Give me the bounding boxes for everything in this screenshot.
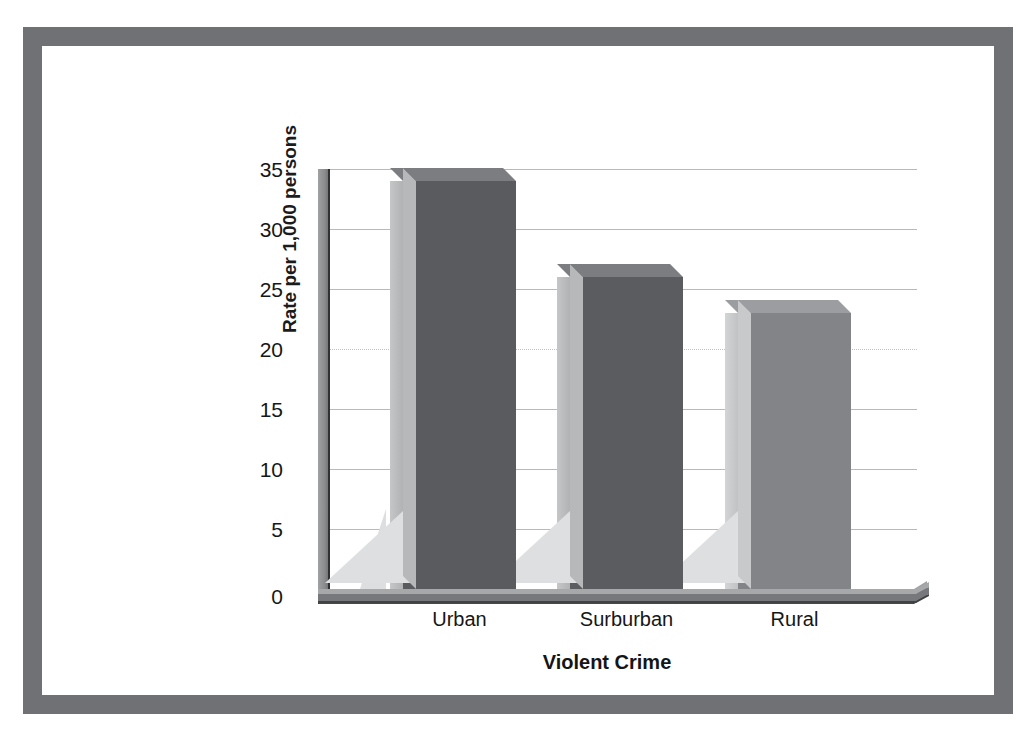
screenshot-root: Rate per 1,000 persons 35 30 25 20 15 — [0, 0, 1033, 733]
frame-inner-white: Rate per 1,000 persons 35 30 25 20 15 — [42, 46, 994, 695]
y-tick-label-15: 15 — [223, 399, 283, 420]
bar-surburban[interactable] — [570, 277, 670, 589]
y-tick-label-0: 0 — [223, 586, 283, 607]
y-tick-label-25: 25 — [223, 279, 283, 300]
bar-urban[interactable] — [403, 181, 503, 589]
bar-rural[interactable] — [738, 313, 838, 589]
bar-side-surburban — [557, 277, 570, 589]
bar-top-rural-shape — [725, 300, 838, 314]
bar-side-urban — [390, 181, 403, 589]
x-tick-label-rural: Rural — [738, 608, 851, 631]
y-tick-label-30: 30 — [223, 219, 283, 240]
y-tick-label-10: 10 — [223, 459, 283, 480]
bar-face-rural — [738, 313, 838, 589]
bar-face-surburban — [570, 277, 670, 589]
bar-top-urban-shape — [390, 168, 503, 182]
bar-chart: Rate per 1,000 persons 35 30 25 20 15 — [42, 46, 994, 695]
y-tick-label-35: 35 — [223, 159, 283, 180]
image-border-frame: Rate per 1,000 persons 35 30 25 20 15 — [23, 27, 1013, 714]
bar-top-surburban-shape — [557, 264, 670, 278]
y-tick-label-5: 5 — [223, 519, 283, 540]
x-tick-label-surburban: Surburban — [570, 608, 683, 631]
bar-side-rural — [725, 313, 738, 589]
bar-top-rural — [725, 300, 838, 313]
plot-area: 35 30 25 20 15 10 5 0 — [297, 141, 917, 611]
y-tick-label-20: 20 — [223, 339, 283, 360]
x-axis-title: Violent Crime — [297, 651, 917, 674]
x-tick-label-urban: Urban — [403, 608, 516, 631]
bar-top-urban — [390, 168, 503, 181]
bar-top-surburban — [557, 264, 670, 277]
bar-face-urban — [403, 181, 503, 589]
